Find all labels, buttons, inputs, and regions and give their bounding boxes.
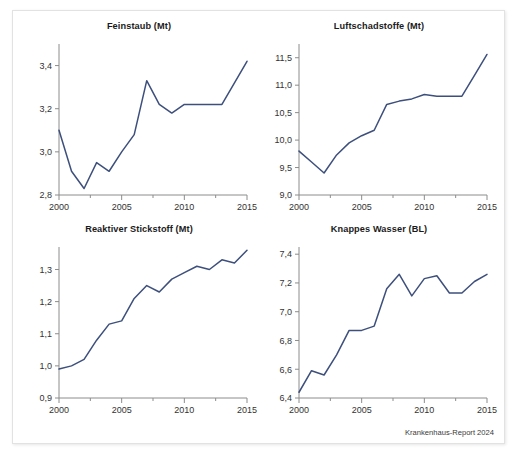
source-note: Krankenhaus-Report 2024 — [405, 428, 494, 437]
y-tick-label: 6,8 — [279, 336, 292, 346]
x-tick-label: 2010 — [174, 405, 194, 415]
y-tick-label: 1,2 — [39, 297, 52, 307]
y-tick-label: 7,0 — [279, 307, 292, 317]
y-tick-label: 1,0 — [39, 361, 52, 371]
y-tick-label: 9,5 — [279, 163, 292, 173]
y-tick-label: 6,4 — [279, 393, 292, 403]
chart-panel-feinstaub: Feinstaub (Mt) 2,83,03,23,42000200520102… — [19, 21, 259, 221]
chart-title: Feinstaub (Mt) — [19, 21, 259, 31]
x-tick-label: 2000 — [49, 405, 69, 415]
y-tick-label: 7,2 — [279, 278, 292, 288]
data-series-line — [299, 54, 487, 173]
y-tick-label: 3,2 — [39, 104, 52, 114]
y-tick-label: 11,5 — [275, 53, 292, 63]
y-tick-label: 1,3 — [39, 265, 52, 275]
chart-plot-luftschadstoffe: 9,09,510,010,511,011,52000200520102015 — [259, 34, 499, 221]
y-tick-label: 10,5 — [274, 108, 292, 118]
x-tick-label: 2010 — [414, 202, 434, 212]
y-tick-label: 3,0 — [39, 147, 52, 157]
y-tick-label: 11,0 — [275, 80, 292, 90]
figure-frame: Feinstaub (Mt) 2,83,03,23,42000200520102… — [12, 10, 505, 444]
x-tick-label: 2010 — [414, 405, 434, 415]
chart-panel-knappes-wasser: Knappes Wasser (BL) 6,46,66,87,07,27,420… — [259, 224, 499, 424]
y-tick-label: 10,0 — [274, 135, 292, 145]
x-tick-label: 2005 — [112, 202, 132, 212]
chart-panel-reaktiver-stickstoff: Reaktiver Stickstoff (Mt) 0,91,01,11,21,… — [19, 224, 259, 424]
y-tick-label: 6,6 — [279, 365, 292, 375]
y-tick-label: 1,1 — [39, 329, 52, 339]
data-series-line — [59, 250, 247, 369]
chart-panel-luftschadstoffe: Luftschadstoffe (Mt) 9,09,510,010,511,01… — [259, 21, 499, 221]
x-tick-label: 2015 — [237, 202, 257, 212]
chart-title: Reaktiver Stickstoff (Mt) — [19, 224, 259, 234]
x-tick-label: 2010 — [174, 202, 194, 212]
y-tick-label: 9,0 — [279, 190, 292, 200]
chart-plot-reaktiver-stickstoff: 0,91,01,11,21,32000200520102015 — [19, 237, 259, 424]
x-tick-label: 2015 — [477, 202, 497, 212]
y-tick-label: 7,4 — [279, 249, 292, 259]
y-tick-label: 0,9 — [39, 393, 52, 403]
x-tick-label: 2005 — [112, 405, 132, 415]
chart-plot-knappes-wasser: 6,46,66,87,07,27,42000200520102015 — [259, 237, 499, 424]
chart-title: Luftschadstoffe (Mt) — [259, 21, 499, 31]
x-tick-label: 2015 — [477, 405, 497, 415]
y-tick-label: 2,8 — [39, 190, 52, 200]
y-tick-label: 3,4 — [39, 61, 52, 71]
x-tick-label: 2000 — [289, 405, 309, 415]
chart-title: Knappes Wasser (BL) — [259, 224, 499, 234]
data-series-line — [299, 274, 487, 392]
data-series-line — [59, 61, 247, 188]
x-tick-label: 2000 — [289, 202, 309, 212]
x-tick-label: 2000 — [49, 202, 69, 212]
x-tick-label: 2005 — [352, 202, 372, 212]
x-tick-label: 2005 — [352, 405, 372, 415]
x-tick-label: 2015 — [237, 405, 257, 415]
chart-plot-feinstaub: 2,83,03,23,42000200520102015 — [19, 34, 259, 221]
